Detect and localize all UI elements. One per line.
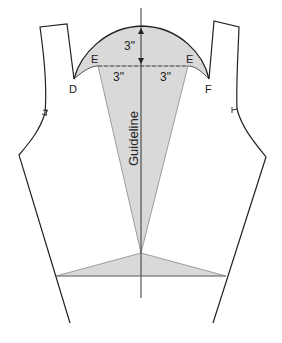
dart-wedge	[98, 66, 188, 253]
label-vertical-measure: 3"	[124, 39, 135, 53]
label-point-e-right: E	[186, 53, 193, 65]
pattern-diagram: 3" 3" 3" E E D F Guideline	[0, 0, 282, 343]
left-bodice-outline	[19, 24, 74, 323]
label-left-measure: 3"	[113, 70, 124, 84]
label-point-f: F	[205, 83, 212, 95]
label-guideline: Guideline	[126, 111, 141, 166]
label-point-e-left: E	[91, 53, 98, 65]
right-bodice-outline	[209, 21, 266, 323]
label-right-measure: 3"	[160, 70, 171, 84]
label-point-d: D	[69, 83, 77, 95]
